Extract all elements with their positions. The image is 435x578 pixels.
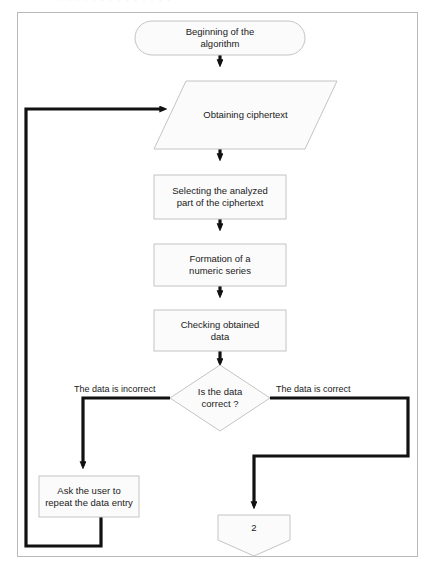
node-decision-shape[interactable] xyxy=(170,365,270,431)
flowchart-frame: Beginning of the algorithm Obtaining cip… xyxy=(17,12,418,557)
figure-page: · · · · · · · · · · · · · · xyxy=(0,0,435,578)
connector-decision-yes-to-offpage xyxy=(254,398,408,506)
node-offpage-connector-shape[interactable] xyxy=(218,515,290,556)
node-select-shape[interactable] xyxy=(154,175,286,219)
flowchart-canvas xyxy=(18,13,417,556)
connector-decision-no-to-ask-user xyxy=(83,398,170,466)
edge-label-data-correct: The data is correct xyxy=(276,384,351,395)
node-checking-shape[interactable] xyxy=(154,310,286,351)
page-top-bleed: · · · · · · · · · · · · · · xyxy=(0,0,435,9)
node-obtain-shape[interactable] xyxy=(154,81,337,149)
node-start-shape[interactable] xyxy=(135,21,305,55)
node-formation-shape[interactable] xyxy=(154,244,286,286)
node-ask-user-shape[interactable] xyxy=(39,476,139,517)
cropped-text-remnant: · · · · · · · · · · · · · · xyxy=(60,0,172,4)
edge-label-data-incorrect: The data is incorrect xyxy=(74,384,156,395)
